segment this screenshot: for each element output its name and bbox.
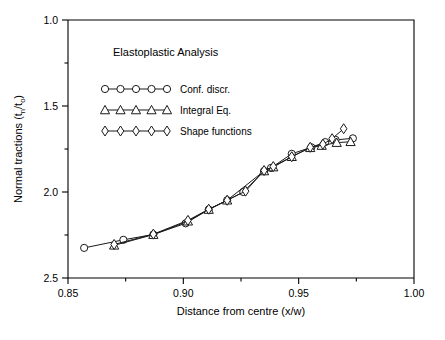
plot-title: Elastoplastic Analysis [113, 46, 219, 58]
y-tick-label: 1.5 [43, 100, 58, 112]
x-tick-label: 0.85 [58, 287, 79, 299]
series-line-0 [84, 138, 353, 248]
legend-label-2: Shape functions [180, 126, 252, 137]
data-point-2-12 [340, 124, 347, 134]
data-point-0-0 [81, 244, 88, 251]
chart-figure: 2.52.01.51.00.850.900.951.00Distance fro… [0, 0, 445, 340]
y-axis-title: Normal tractions (tn/to) [12, 95, 27, 203]
x-tick-label: 0.95 [288, 287, 309, 299]
chart-canvas: 2.52.01.51.00.850.900.951.00Distance fro… [0, 0, 445, 340]
legend-marker-0-3 [148, 85, 155, 92]
x-tick-label: 0.90 [173, 287, 194, 299]
legend-marker-2-1 [117, 126, 124, 136]
legend-marker-2-0 [102, 126, 109, 136]
legend-label-1: Integral Eq. [180, 105, 231, 116]
legend-marker-2-2 [133, 126, 140, 136]
series-line-1 [114, 142, 350, 246]
legend-marker-0-2 [132, 85, 139, 92]
y-tick-label: 2.5 [43, 272, 58, 284]
legend-marker-0-0 [101, 85, 108, 92]
legend-label-0: Conf. discr. [180, 84, 230, 95]
legend-marker-0-4 [163, 85, 170, 92]
legend-marker-0-1 [117, 85, 124, 92]
legend-marker-2-4 [164, 126, 171, 136]
y-tick-label: 2.0 [43, 186, 58, 198]
legend-marker-2-3 [148, 126, 155, 136]
y-tick-label: 1.0 [43, 14, 58, 26]
x-tick-label: 1.00 [404, 287, 425, 299]
x-axis-title: Distance from centre (x/w) [177, 305, 305, 317]
